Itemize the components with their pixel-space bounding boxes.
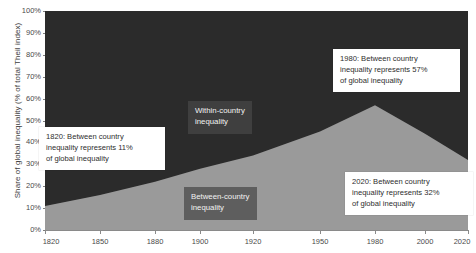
region-label-between-country: Between-country inequality: [184, 187, 257, 220]
x-tick-label: 2000: [417, 237, 434, 246]
y-tick-label: 20%: [15, 182, 41, 190]
y-tick-label: 10%: [15, 204, 41, 212]
y-tick-label: 40%: [15, 138, 41, 146]
x-tick-mark: [45, 230, 46, 234]
x-tick-mark: [200, 230, 201, 234]
x-tick-mark: [468, 230, 469, 234]
region-label-within-country: Within-country inequality: [188, 101, 252, 134]
y-tick-label: 30%: [15, 160, 41, 168]
y-tick-label: 50%: [15, 117, 41, 125]
y-tick-label: 0%: [15, 226, 41, 234]
y-tick-label: 90%: [15, 29, 41, 37]
x-tick-mark: [320, 230, 321, 234]
x-tick-mark: [155, 230, 156, 234]
y-tick-label: 80%: [15, 51, 41, 59]
x-axis-line: [45, 230, 468, 231]
annotation-callout-1820: 1820: Between country inequality represe…: [39, 127, 165, 170]
x-tick-label: 1900: [192, 237, 209, 246]
annotation-callout-1980: 1980: Between country inequality represe…: [333, 49, 460, 92]
x-tick-mark: [425, 230, 426, 234]
y-axis-ticks: 0%10%20%30%40%50%60%70%80%90%100%: [8, 0, 41, 253]
x-tick-label: 1920: [245, 237, 262, 246]
x-tick-label: 1850: [92, 237, 109, 246]
x-tick-label: 1950: [312, 237, 329, 246]
y-tick-label: 70%: [15, 73, 41, 81]
x-tick-label: 1880: [147, 237, 164, 246]
y-tick-label: 100%: [15, 7, 41, 15]
x-tick-label: 2020: [454, 237, 471, 246]
annotation-callout-2020: 2020: Between country inequality represe…: [345, 172, 473, 215]
x-tick-mark: [100, 230, 101, 234]
area-chart: Share of global inequality (% of total T…: [0, 0, 476, 253]
x-tick-mark: [375, 230, 376, 234]
x-tick-label: 1820: [43, 237, 60, 246]
x-tick-mark: [253, 230, 254, 234]
x-tick-label: 1980: [367, 237, 384, 246]
y-tick-label: 60%: [15, 95, 41, 103]
